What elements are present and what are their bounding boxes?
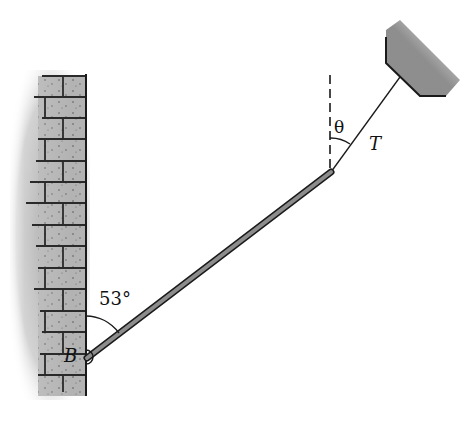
theta-arc xyxy=(330,138,350,144)
statics-diagram: 53° B θ T xyxy=(0,0,473,421)
hinge-b-label: B xyxy=(63,345,77,366)
theta-label: θ xyxy=(334,117,344,137)
angle-53-label: 53° xyxy=(99,288,131,309)
ceiling-bracket xyxy=(386,20,460,96)
tension-t-label: T xyxy=(369,133,383,154)
rod xyxy=(87,172,331,358)
angle-53-arc xyxy=(86,316,119,333)
